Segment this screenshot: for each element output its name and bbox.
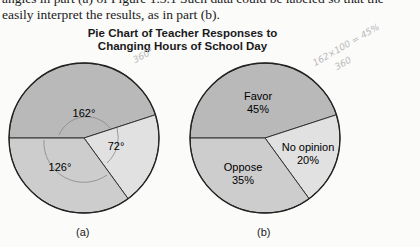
angle-label-162: 162° — [73, 107, 96, 119]
slice-pct-no-opinion: 20% — [297, 154, 319, 166]
angle-label-126: 126° — [49, 161, 72, 173]
caption-b: (b) — [257, 226, 270, 238]
slice-pct-favor: 45% — [247, 103, 269, 115]
slice-label-favor: Favor — [244, 90, 272, 102]
slice-label-no-opinion: No opinion — [282, 141, 335, 153]
slice-label-oppose: Oppose — [224, 161, 263, 173]
caption-a: (a) — [76, 226, 89, 238]
pie-chart-b: Favor 45% No opinion 20% Oppose 35% — [190, 63, 340, 213]
slice-pct-oppose: 35% — [232, 174, 254, 186]
pie-chart-a: 162° 72° 126° — [9, 63, 159, 213]
angle-label-72: 72° — [108, 140, 125, 152]
